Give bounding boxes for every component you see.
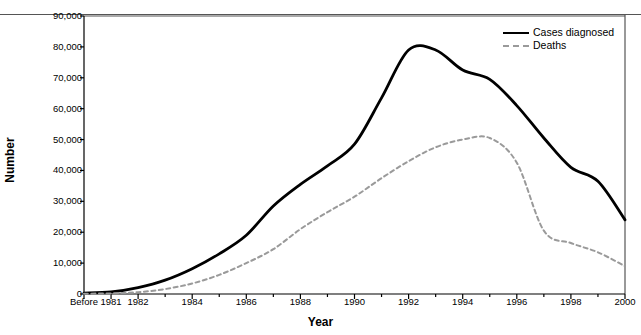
- chart-figure: Number Year 010,00020,00030,00040,00050,…: [0, 0, 641, 335]
- legend-label: Cases diagnosed: [533, 26, 614, 39]
- legend-line-swatch-icon: [503, 41, 529, 51]
- series-line-cases-diagnosed: [84, 46, 625, 294]
- series-line-deaths: [84, 136, 625, 293]
- legend-entry: Deaths: [503, 39, 614, 52]
- legend-line-swatch-icon: [503, 28, 529, 38]
- chart-legend: Cases diagnosedDeaths: [503, 26, 614, 52]
- legend-entry: Cases diagnosed: [503, 26, 614, 39]
- legend-label: Deaths: [533, 39, 566, 52]
